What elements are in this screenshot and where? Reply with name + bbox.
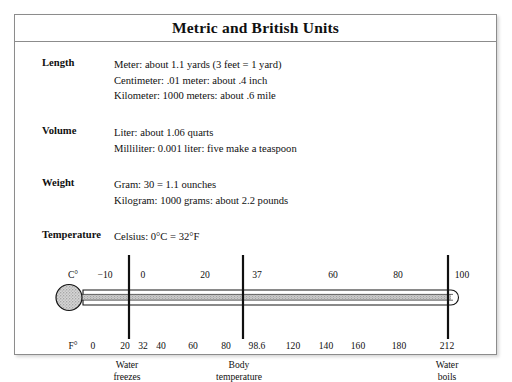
callout-line: freezes xyxy=(113,371,140,382)
celsius-tick-label: 20 xyxy=(200,269,210,280)
callout-body-temperature: Body temperature xyxy=(216,359,262,382)
fahrenheit-tick-label: 32 xyxy=(138,340,148,351)
units-table-frame: Metric and British Units Length Meter: a… xyxy=(14,14,497,355)
callout-water-boils: Water boils xyxy=(436,359,459,382)
unit-group-label-length: Length xyxy=(42,57,74,68)
thermometer-mercury-column xyxy=(77,295,451,301)
fahrenheit-axis-label: F° xyxy=(68,340,77,351)
unit-line: Gram: 30 = 1.1 ounches xyxy=(114,177,288,193)
unit-group-lines-weight: Gram: 30 = 1.1 ounches Kilogram: 1000 gr… xyxy=(114,177,288,208)
fahrenheit-tick-label: 80 xyxy=(221,340,231,351)
callout-line: boils xyxy=(436,371,459,382)
fahrenheit-tick-label: 98.6 xyxy=(249,340,266,351)
callout-line: Body xyxy=(216,359,262,371)
unit-group-label-volume: Volume xyxy=(42,125,76,136)
unit-group-label-weight: Weight xyxy=(42,177,74,188)
fahrenheit-tick-label: 160 xyxy=(351,340,365,351)
celsius-tick-label: 0 xyxy=(141,269,146,280)
fahrenheit-tick-label: 212 xyxy=(440,340,454,351)
callout-line: temperature xyxy=(216,371,262,382)
unit-line: Meter: about 1.1 yards (3 feet = 1 yard) xyxy=(114,57,281,73)
unit-line: Centimeter: .01 meter: about .4 inch xyxy=(114,73,281,89)
celsius-tick-label: 100 xyxy=(455,269,469,280)
table-body: Length Meter: about 1.1 yards (3 feet = … xyxy=(15,42,496,354)
unit-line: Kilogram: 1000 grams: about 2.2 pounds xyxy=(114,193,288,209)
fahrenheit-tick-label: 60 xyxy=(188,340,198,351)
unit-line: Milliliter: 0.001 liter: five make a tea… xyxy=(114,141,297,157)
unit-line: Kilometer: 1000 meters: about .6 mile xyxy=(114,88,281,104)
fahrenheit-tick-label: 20 xyxy=(120,340,130,351)
fahrenheit-tick-label: 180 xyxy=(392,340,406,351)
unit-group-lines-length: Meter: about 1.1 yards (3 feet = 1 yard)… xyxy=(114,57,281,104)
callout-line: Water xyxy=(113,359,140,371)
fahrenheit-tick-label: 0 xyxy=(91,340,96,351)
thermometer-diagram xyxy=(15,238,498,378)
page-title: Metric and British Units xyxy=(172,20,339,36)
table-title-row: Metric and British Units xyxy=(15,15,496,42)
unit-group-lines-volume: Liter: about 1.06 quarts Milliliter: 0.0… xyxy=(114,125,297,156)
callout-water-freezes: Water freezes xyxy=(113,359,140,382)
celsius-tick-label: −10 xyxy=(97,269,112,280)
callout-line: Water xyxy=(436,359,459,371)
thermometer-bulb xyxy=(56,285,82,311)
thermometer-figure: C° −10 0 20 37 60 80 100 F° 0 20 32 40 6… xyxy=(15,238,496,378)
celsius-axis-label: C° xyxy=(68,269,78,280)
fahrenheit-tick-label: 140 xyxy=(319,340,333,351)
fahrenheit-tick-label: 120 xyxy=(286,340,300,351)
celsius-tick-label: 60 xyxy=(328,269,338,280)
celsius-tick-label: 37 xyxy=(252,269,262,280)
fahrenheit-tick-label: 40 xyxy=(156,340,166,351)
unit-line: Liter: about 1.06 quarts xyxy=(114,125,297,141)
celsius-tick-label: 80 xyxy=(393,269,403,280)
